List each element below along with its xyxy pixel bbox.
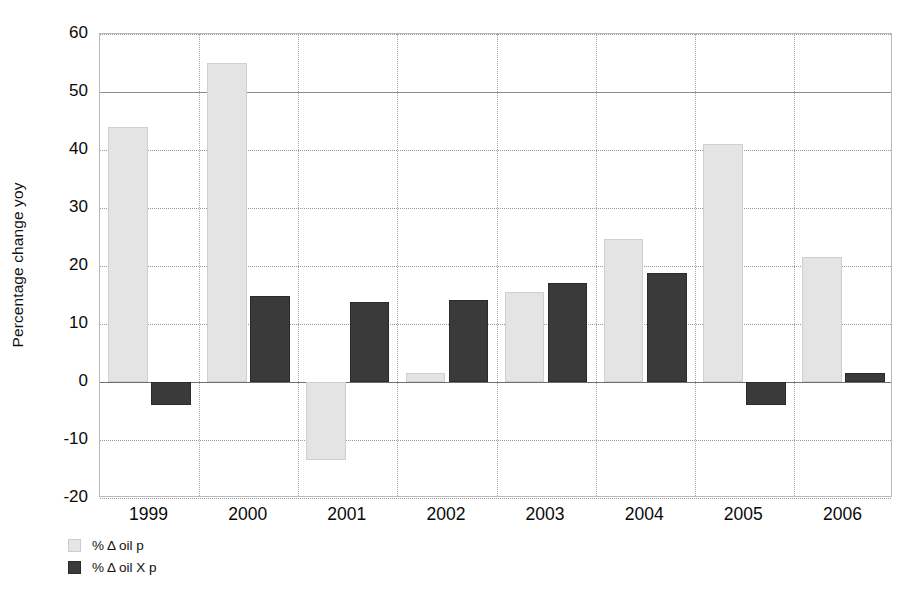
bar-group-2003 bbox=[497, 34, 596, 496]
bar-2006-series-0 bbox=[802, 257, 842, 382]
bar-group-2002 bbox=[397, 34, 496, 496]
bar-group-2004 bbox=[596, 34, 695, 496]
bar-2004-series-0 bbox=[604, 239, 644, 382]
y-tick-label-40: 40 bbox=[32, 140, 88, 157]
bar-2002-series-0 bbox=[406, 373, 446, 382]
bar-2005-series-0 bbox=[703, 144, 743, 382]
bar-group-2000 bbox=[199, 34, 298, 496]
bar-2001-series-1 bbox=[350, 302, 390, 382]
legend-item-0: % Δ oil p bbox=[68, 536, 157, 555]
bar-1999-series-1 bbox=[151, 382, 191, 405]
bar-2000-series-1 bbox=[250, 296, 290, 382]
y-tick-label--20: -20 bbox=[32, 488, 88, 505]
x-tick-label-2005: 2005 bbox=[694, 503, 793, 525]
bar-1999-series-0 bbox=[108, 127, 148, 382]
bar-2004-series-1 bbox=[647, 273, 687, 382]
plot-area bbox=[99, 33, 892, 497]
y-axis-title-text: Percentage change yoy bbox=[9, 183, 27, 348]
x-tick-label-2002: 2002 bbox=[396, 503, 495, 525]
x-tick-label-2000: 2000 bbox=[198, 503, 297, 525]
y-tick-label--10: -10 bbox=[32, 430, 88, 447]
legend-label-0: % Δ oil p bbox=[92, 538, 144, 553]
legend-swatch-light bbox=[68, 539, 81, 552]
y-tick-label-10: 10 bbox=[32, 314, 88, 331]
bar-2002-series-1 bbox=[449, 300, 489, 382]
chart-legend: % Δ oil p % Δ oil X p bbox=[68, 536, 157, 580]
bar-2001-series-0 bbox=[306, 382, 346, 460]
bar-group-2005 bbox=[695, 34, 794, 496]
y-axis-title: Percentage change yoy bbox=[6, 33, 30, 497]
x-axis-tick-labels: 19992000200120022003200420052006 bbox=[99, 503, 892, 531]
y-tick-label-0: 0 bbox=[32, 372, 88, 389]
bar-2003-series-1 bbox=[548, 283, 588, 382]
legend-swatch-dark bbox=[68, 561, 81, 574]
bar-chart-figure: Percentage change yoy 6050403020100-10-2… bbox=[0, 0, 917, 616]
bar-2003-series-0 bbox=[505, 292, 545, 382]
bar-groups bbox=[100, 34, 891, 496]
y-axis-tick-labels: 6050403020100-10-20 bbox=[34, 0, 96, 616]
legend-item-1: % Δ oil X p bbox=[68, 558, 157, 577]
x-tick-label-2003: 2003 bbox=[496, 503, 595, 525]
bar-2005-series-1 bbox=[746, 382, 786, 405]
x-tick-label-2004: 2004 bbox=[595, 503, 694, 525]
bar-group-2001 bbox=[298, 34, 397, 496]
y-tick-label-50: 50 bbox=[32, 82, 88, 99]
bar-2000-series-0 bbox=[207, 63, 247, 382]
legend-label-1: % Δ oil X p bbox=[92, 560, 157, 575]
y-tick-label-60: 60 bbox=[32, 24, 88, 41]
bar-group-2006 bbox=[794, 34, 893, 496]
x-tick-label-1999: 1999 bbox=[99, 503, 198, 525]
x-tick-label-2006: 2006 bbox=[793, 503, 892, 525]
y-tick-label-30: 30 bbox=[32, 198, 88, 215]
bar-group-1999 bbox=[100, 34, 199, 496]
x-tick-label-2001: 2001 bbox=[297, 503, 396, 525]
bar-2006-series-1 bbox=[845, 373, 885, 382]
gridline--20 bbox=[100, 498, 891, 499]
y-tick-label-20: 20 bbox=[32, 256, 88, 273]
